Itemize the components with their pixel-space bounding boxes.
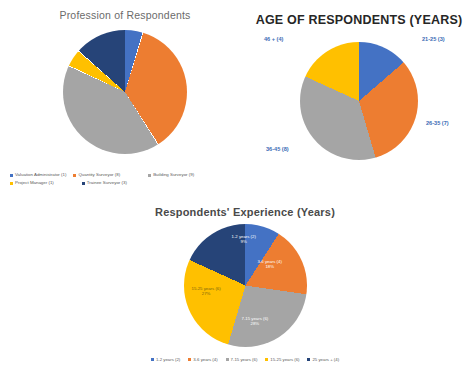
chart-title-experience: Respondents' Experience (Years): [110, 206, 380, 218]
datalabel-exp-1-2-years: 1-2 years (2) 9%: [232, 234, 256, 245]
legend-item-building-surveyor[interactable]: Building Surveyor (9): [148, 173, 194, 178]
legend-item-trainee-surveyor[interactable]: Trainee Surveyor (3): [82, 181, 127, 186]
legend-row-2: Project Manager (1) Trainee Surveyor (3): [10, 181, 260, 186]
legend-swatch-valuation-administrator: [10, 174, 13, 177]
legend-experience: 1-2 years (2) 3-6 years (4) 7-15 years (…: [110, 357, 380, 362]
legend-label-project-manager: Project Manager (1): [15, 181, 54, 186]
legend-item-7-15-years[interactable]: 7-15 years (6): [226, 357, 258, 362]
slide-canvas: Profession of Respondents Valuation Admi…: [0, 0, 468, 384]
chart-age-of-respondents: AGE OF RESPONDENTS (YEARS) 21-25 (3) 26-…: [250, 0, 468, 200]
chart-title-profession: Profession of Respondents: [0, 10, 250, 22]
legend-profession: Valuation Administrator (1) Quantity Sur…: [10, 173, 260, 189]
datalabel-exp-1-2-years-name: 1-2 years (2): [232, 234, 256, 239]
legend-label-trainee-surveyor: Trainee Surveyor (3): [87, 181, 127, 186]
legend-item-15-25-years[interactable]: 15-25 years (6): [265, 357, 299, 362]
legend-label-7-15-years: 7-15 years (6): [231, 357, 258, 362]
datalabel-age-46-plus: 46 + (4): [264, 36, 283, 42]
datalabel-exp-7-15-years-percent: 28%: [251, 321, 260, 326]
legend-swatch-7-15-years: [226, 358, 229, 361]
legend-item-valuation-administrator[interactable]: Valuation Administrator (1): [10, 173, 66, 178]
legend-label-3-6-years: 3-6 years (4): [193, 357, 217, 362]
legend-swatch-3-6-years: [188, 358, 191, 361]
datalabel-exp-15-25-years: 15-25 years (6) 27%: [192, 286, 221, 297]
chart-profession-of-respondents: Profession of Respondents Valuation Admi…: [0, 0, 250, 200]
chart-title-age: AGE OF RESPONDENTS (YEARS): [250, 14, 468, 28]
chart-respondents-experience: Respondents' Experience (Years) 1-2 year…: [110, 203, 380, 384]
datalabel-exp-3-6-years-percent: 18%: [265, 264, 274, 269]
legend-label-building-surveyor: Building Surveyor (9): [153, 173, 194, 178]
legend-swatch-project-manager: [10, 182, 13, 185]
datalabel-exp-7-15-years-name: 7-15 years (6): [242, 316, 269, 321]
legend-label-quantity-surveyor: Quantity Surveyor (8): [78, 173, 120, 178]
legend-swatch-1-2-years: [151, 358, 154, 361]
legend-swatch-quantity-surveyor: [73, 174, 76, 177]
datalabel-exp-3-6-years: 3-6 years (4) 18%: [258, 259, 282, 270]
datalabel-exp-15-25-years-name: 15-25 years (6): [192, 286, 221, 291]
legend-item-25-years-plus[interactable]: 25 years + (4): [307, 357, 339, 362]
legend-swatch-15-25-years: [265, 358, 268, 361]
legend-label-1-2-years: 1-2 years (2): [156, 357, 180, 362]
legend-item-3-6-years[interactable]: 3-6 years (4): [188, 357, 217, 362]
pie-age: 21-25 (3) 26-35 (7) 36-45 (8) 46 + (4): [300, 42, 418, 160]
datalabel-exp-1-2-years-percent: 9%: [241, 239, 247, 244]
legend-swatch-trainee-surveyor: [82, 182, 85, 185]
datalabel-exp-15-25-years-percent: 27%: [202, 291, 211, 296]
legend-item-project-manager[interactable]: Project Manager (1): [10, 181, 54, 186]
legend-swatch-25-years-plus: [307, 358, 310, 361]
legend-row-1: Valuation Administrator (1) Quantity Sur…: [10, 173, 260, 178]
datalabel-exp-7-15-years: 7-15 years (6) 28%: [242, 316, 269, 327]
pie-profession: [63, 30, 187, 154]
legend-item-quantity-surveyor[interactable]: Quantity Surveyor (8): [73, 173, 120, 178]
legend-item-1-2-years[interactable]: 1-2 years (2): [151, 357, 180, 362]
legend-label-15-25-years: 15-25 years (6): [270, 357, 299, 362]
legend-label-valuation-administrator: Valuation Administrator (1): [15, 173, 66, 178]
datalabel-age-26-35: 26-35 (7): [426, 120, 449, 126]
datalabel-age-36-45: 36-45 (8): [266, 146, 289, 152]
legend-swatch-building-surveyor: [148, 174, 151, 177]
pie-experience: 1-2 years (2) 9% 3-6 years (4) 18% 7-15 …: [184, 224, 307, 347]
datalabel-age-21-25: 21-25 (3): [422, 36, 445, 42]
datalabel-exp-3-6-years-name: 3-6 years (4): [258, 259, 282, 264]
legend-label-25-years-plus: 25 years + (4): [312, 357, 339, 362]
